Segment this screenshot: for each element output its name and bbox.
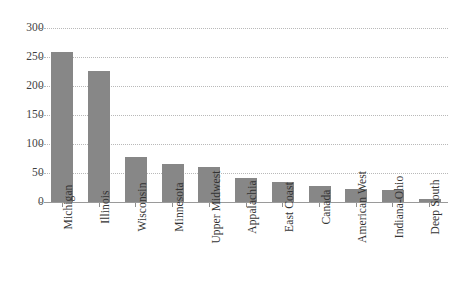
x-label-slot: American West	[338, 203, 375, 289]
x-label-slot: Deep South	[411, 203, 448, 289]
y-axis-tick-mark	[38, 202, 43, 203]
y-axis-tick-mark	[38, 144, 43, 145]
y-axis-tick-mark	[38, 173, 43, 174]
x-axis-tick-label: Indiana-Ohio	[393, 176, 405, 239]
x-axis-tick-label: East Coast	[283, 182, 295, 232]
bar	[88, 71, 110, 202]
bar-slot	[264, 28, 301, 202]
x-axis-tick-label: Minnesota	[173, 182, 185, 231]
x-axis-tick-label: Deep South	[430, 180, 442, 235]
y-axis-tick-mark	[38, 28, 43, 29]
y-axis-tick-mark	[38, 57, 43, 58]
x-axis-labels: MichiganIllinoisWisconsinMinnesotaUpper …	[44, 203, 448, 289]
x-label-slot: Minnesota	[154, 203, 191, 289]
x-axis-tick-label: American West	[356, 171, 368, 243]
y-axis-tick-mark	[38, 115, 43, 116]
bar-slot	[117, 28, 154, 202]
bar-slot	[301, 28, 338, 202]
y-axis-tick-mark	[38, 86, 43, 87]
bar-series	[44, 28, 448, 202]
x-label-slot: Canada	[301, 203, 338, 289]
x-axis-tick-label: Michigan	[62, 185, 74, 230]
x-label-slot: Indiana-Ohio	[375, 203, 412, 289]
x-axis-tick-label: Appalachia	[246, 180, 258, 233]
x-axis-tick-label: Canada	[320, 189, 332, 224]
bar-chart: MichiganIllinoisWisconsinMinnesotaUpper …	[0, 0, 465, 290]
x-label-slot: Illinois	[81, 203, 118, 289]
x-axis-tick-label: Wisconsin	[136, 183, 148, 232]
bar-slot	[228, 28, 265, 202]
bar-slot	[81, 28, 118, 202]
bar-slot	[411, 28, 448, 202]
x-axis-tick-label: Upper Midwest	[209, 170, 221, 243]
x-label-slot: Upper Midwest	[191, 203, 228, 289]
x-label-slot: East Coast	[264, 203, 301, 289]
x-label-slot: Wisconsin	[117, 203, 154, 289]
bar-slot	[154, 28, 191, 202]
bar-slot	[44, 28, 81, 202]
x-label-slot: Michigan	[44, 203, 81, 289]
bar	[51, 52, 73, 202]
x-axis-tick-label: Illinois	[99, 190, 111, 223]
x-label-slot: Appalachia	[228, 203, 265, 289]
